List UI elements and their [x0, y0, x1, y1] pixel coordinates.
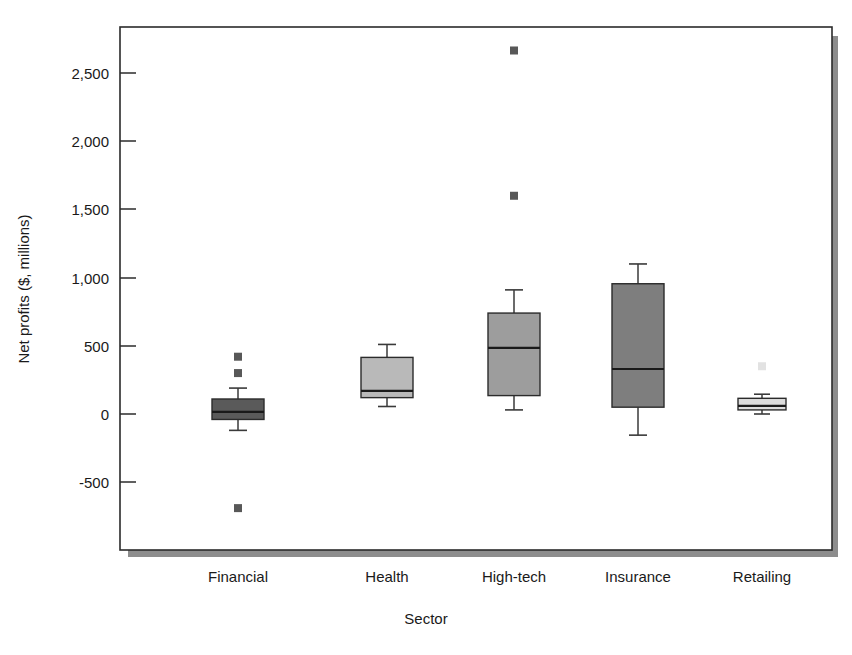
cat-label-retailing: Retailing: [733, 568, 791, 585]
y-axis-title: Net profits ($, millions): [15, 214, 32, 363]
box-financial: [212, 399, 264, 419]
y-tick-label-2500: 2,500: [71, 65, 109, 82]
outlier-high-tech-0: [510, 46, 518, 54]
outlier-high-tech-1: [510, 192, 518, 200]
cat-label-insurance: Insurance: [605, 568, 671, 585]
y-axis-tick-labels: 2,500 2,000 1,500 1,000 500 0 -500: [71, 65, 109, 491]
box-retailing: [738, 398, 786, 410]
y-tick-label-1500: 1,500: [71, 201, 109, 218]
y-tick-label-0: 0: [101, 406, 109, 423]
outlier-financial-2: [234, 504, 242, 512]
y-tick-label-1000: 1,000: [71, 270, 109, 287]
outlier-retailing-0: [758, 362, 766, 370]
boxplot-figure: 2,500 2,000 1,500 1,000 500 0 -500 Net p…: [0, 0, 852, 655]
y-tick-label-neg500: -500: [79, 474, 109, 491]
cat-label-hightech: High-tech: [482, 568, 546, 585]
outlier-financial-1: [234, 369, 242, 377]
cat-label-health: Health: [365, 568, 408, 585]
cat-label-financial: Financial: [208, 568, 268, 585]
box-high-tech: [488, 313, 540, 396]
box-insurance: [612, 284, 664, 407]
plot-frame: [120, 27, 832, 550]
outlier-financial-0: [234, 353, 242, 361]
x-axis-category-labels: Financial Health High-tech Insurance Ret…: [208, 568, 791, 585]
x-axis-title: Sector: [404, 610, 447, 627]
y-tick-label-2000: 2,000: [71, 133, 109, 150]
y-tick-label-500: 500: [84, 338, 109, 355]
